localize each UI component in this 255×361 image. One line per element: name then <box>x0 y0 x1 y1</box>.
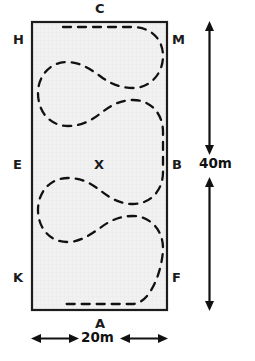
arena-marker-h: H <box>13 33 24 46</box>
arena-marker-c: C <box>95 2 105 15</box>
arena-marker-b: B <box>172 158 182 171</box>
dimension-arrow-horizontal-right <box>120 334 168 343</box>
arena-marker-k: K <box>13 271 23 284</box>
arena-marker-e: E <box>13 158 22 171</box>
dimension-arrow-vertical-upper <box>205 21 214 155</box>
arena-marker-f: F <box>172 271 181 284</box>
arena-svg-canvas <box>0 0 255 361</box>
dimension-arrow-vertical-lower <box>205 177 214 311</box>
dimension-label-height: 40m <box>199 157 232 171</box>
arena-diagram: C H M E X B K F A 40m 20m <box>0 0 255 361</box>
arena-marker-x: X <box>94 158 104 171</box>
arena-marker-m: M <box>172 33 185 46</box>
dimension-label-width: 20m <box>81 331 114 345</box>
dimension-arrow-horizontal-left <box>31 334 79 343</box>
